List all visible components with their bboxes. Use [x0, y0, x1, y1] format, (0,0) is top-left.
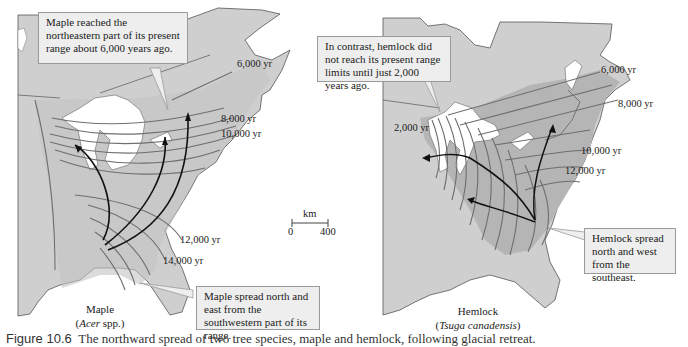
figure-number: Figure 10.6 — [6, 331, 72, 346]
maple-label-6000: 6,000 yr — [237, 58, 272, 69]
hemlock-label-10000: 10,000 yr — [581, 145, 621, 156]
hemlock-map-title: Hemlock (Tsuga canadensis) — [418, 304, 538, 332]
maple-latin-name: (Acer spp.) — [60, 316, 140, 330]
maple-callout-top: Maple reached the northeastern part of i… — [38, 12, 188, 64]
maple-common-name: Maple — [60, 302, 140, 316]
caption-text: The northward spread of two tree species… — [78, 331, 535, 346]
hemlock-callout-bottom: Hemlock spread north and west from the s… — [584, 228, 676, 274]
maple-map-title: Maple (Acer spp.) — [60, 302, 140, 330]
maple-callout-bottom: Maple spread north and east from the sou… — [196, 286, 320, 330]
hemlock-label-6000: 6,000 yr — [601, 64, 636, 75]
maple-label-12000: 12,000 yr — [180, 234, 220, 245]
scale-max: 400 — [320, 226, 336, 237]
scale-min: 0 — [288, 226, 293, 237]
hemlock-callout-top: In contrast, hemlock did not reach its p… — [317, 36, 451, 82]
hemlock-label-8000: 8,000 yr — [618, 98, 653, 109]
maple-label-8000: 8,000 yr — [221, 113, 256, 124]
hemlock-latin-name: (Tsuga canadensis) — [418, 318, 538, 332]
maple-label-10000: 10,000 yr — [221, 128, 261, 139]
scale-unit: km — [303, 208, 316, 219]
hemlock-common-name: Hemlock — [418, 304, 538, 318]
maple-label-14000: 14,000 yr — [163, 255, 203, 266]
hemlock-label-2000: 2,000 yr — [394, 122, 429, 133]
figure-caption: Figure 10.6 The northward spread of two … — [6, 331, 536, 347]
hemlock-label-12000: 12,000 yr — [565, 165, 605, 176]
